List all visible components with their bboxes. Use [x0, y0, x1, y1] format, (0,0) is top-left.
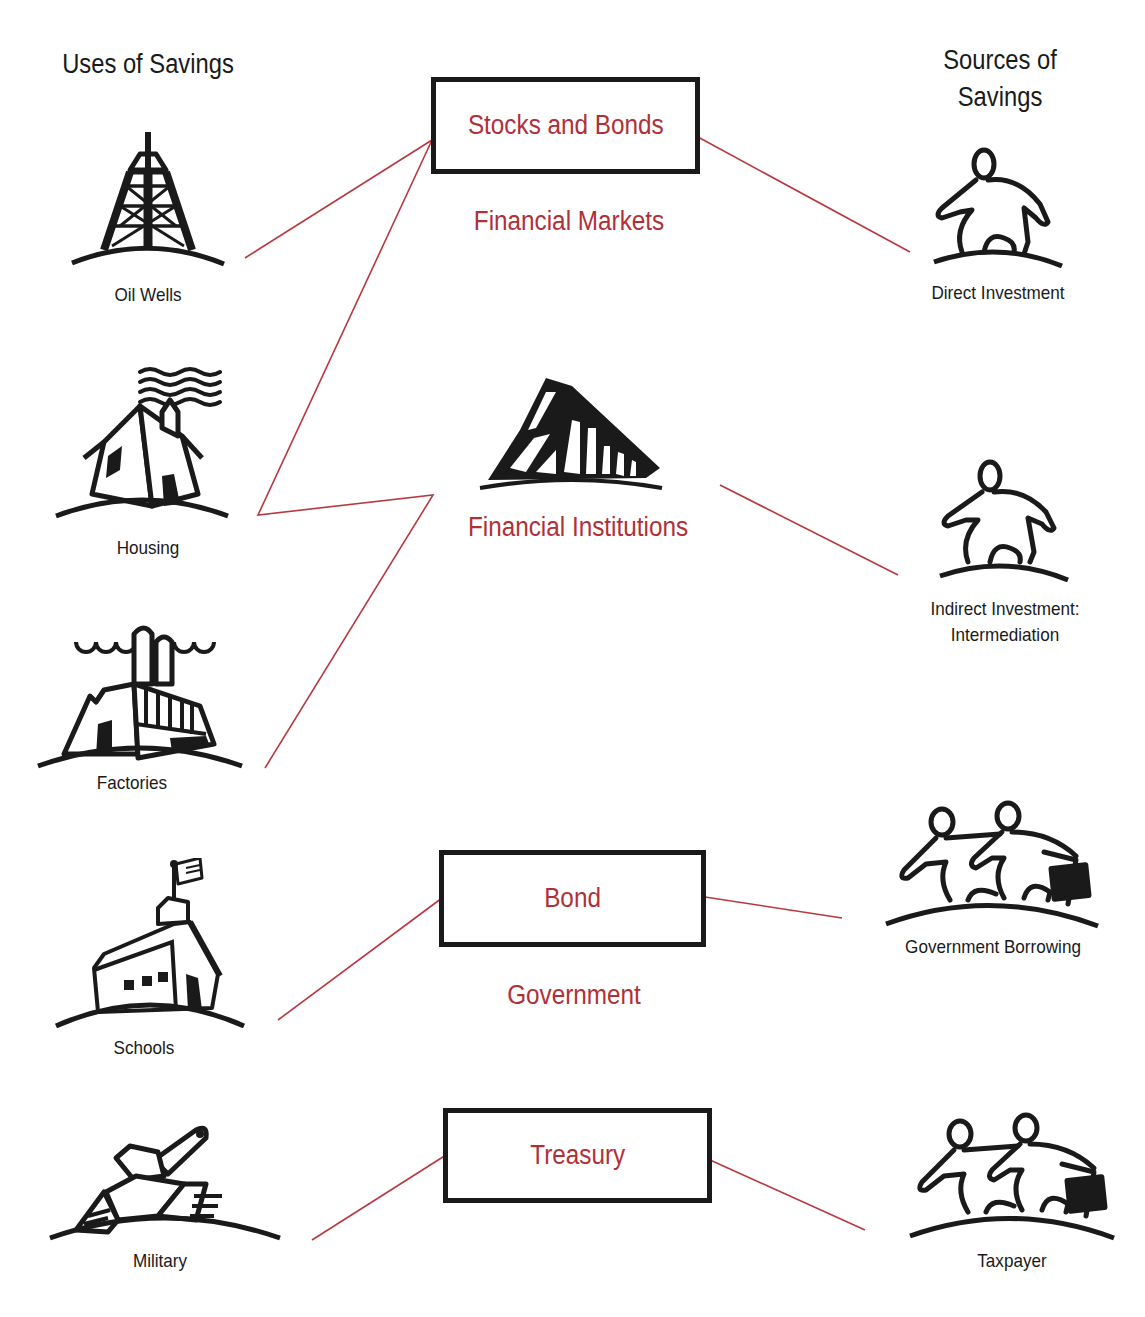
- schoolhouse-icon: [52, 858, 246, 1030]
- bond-label: Bond: [544, 883, 601, 914]
- financial-markets-label: Financial Markets: [451, 206, 687, 237]
- source-label-taxpayer: Taxpayer: [958, 1248, 1066, 1274]
- source-label-government-borrowing: Government Borrowing: [897, 934, 1090, 960]
- stocks-and-bonds-box: Stocks and Bonds: [431, 77, 700, 174]
- connector-stocks-direct: [698, 137, 910, 252]
- sources-of-savings-heading: Sources of Savings: [912, 42, 1088, 116]
- treasury-label: Treasury: [530, 1140, 625, 1171]
- government-label: Government: [453, 980, 694, 1011]
- bank-building-icon: [476, 372, 666, 494]
- bond-box: Bond: [439, 850, 706, 947]
- sources-heading-line2: Savings: [912, 79, 1088, 116]
- connector-stocks-housing-institutions-factories: [258, 140, 433, 768]
- two-people-briefcase-icon: [906, 1112, 1118, 1242]
- connector-oilwells-stocks: [245, 140, 432, 258]
- stocks-and-bonds-label: Stocks and Bonds: [468, 110, 664, 141]
- connector-schools-bond: [278, 898, 442, 1020]
- indirect-label-line1: Indirect Investment:: [909, 596, 1102, 622]
- uses-of-savings-heading: Uses of Savings: [51, 46, 245, 83]
- connector-institutions-indirect: [720, 485, 898, 575]
- person-icon: [934, 458, 1074, 582]
- tank-icon: [46, 1110, 284, 1242]
- source-label-indirect-investment: Indirect Investment: Intermediation: [909, 596, 1102, 648]
- use-label-oil-wells: Oil Wells: [94, 282, 202, 308]
- sources-heading-line1: Sources of: [912, 42, 1088, 79]
- use-label-schools: Schools: [90, 1035, 198, 1061]
- financial-institutions-label: Financial Institutions: [452, 512, 704, 543]
- two-people-briefcase-icon: [880, 800, 1102, 930]
- use-label-military: Military: [106, 1248, 214, 1274]
- treasury-box: Treasury: [443, 1108, 712, 1203]
- connector-military-treasury: [312, 1155, 446, 1240]
- connector-treasury-taxpayer: [710, 1160, 865, 1230]
- factory-icon: [34, 624, 246, 770]
- use-label-housing: Housing: [94, 535, 202, 561]
- connector-bond-govborrowing: [705, 897, 842, 918]
- source-label-direct-investment: Direct Investment: [917, 280, 1079, 306]
- indirect-label-line2: Intermediation: [909, 622, 1102, 648]
- oil-derrick-icon: [68, 128, 228, 270]
- use-label-factories: Factories: [78, 770, 186, 796]
- house-icon: [52, 366, 232, 520]
- person-icon: [928, 146, 1068, 272]
